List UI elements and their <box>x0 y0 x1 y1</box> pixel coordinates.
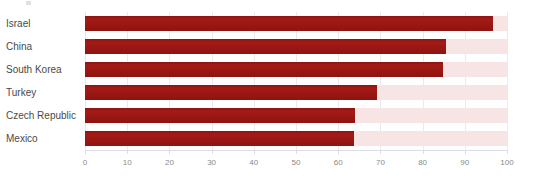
bar-row <box>85 58 507 81</box>
x-tick-label: 10 <box>123 158 132 167</box>
category-axis-labels: IsraelChinaSouth KoreaTurkeyCzech Republ… <box>0 12 74 150</box>
bar-row <box>85 81 507 104</box>
x-tick-label: 100 <box>500 158 513 167</box>
category-label-south-korea: South Korea <box>6 58 74 81</box>
bar-mexico[interactable] <box>85 131 354 146</box>
x-tick-label: 30 <box>207 158 216 167</box>
x-tick-mark <box>212 150 213 154</box>
x-tick-label: 20 <box>165 158 174 167</box>
bar-row <box>85 12 507 35</box>
bar-chart: IsraelChinaSouth KoreaTurkeyCzech Republ… <box>0 0 536 185</box>
bar-row <box>85 127 507 150</box>
crop-artifact-mark <box>26 1 31 5</box>
x-tick-mark <box>85 150 86 154</box>
x-tick-label: 0 <box>83 158 87 167</box>
x-tick-mark <box>254 150 255 154</box>
gridline <box>507 12 508 150</box>
x-tick-mark <box>423 150 424 154</box>
category-label-czech-republic: Czech Republic <box>6 104 74 127</box>
bar-turkey[interactable] <box>85 85 377 100</box>
bar-south-korea[interactable] <box>85 62 443 77</box>
x-tick-label: 60 <box>334 158 343 167</box>
bar-china[interactable] <box>85 39 446 54</box>
bar-israel[interactable] <box>85 16 493 31</box>
plot-area <box>85 12 507 150</box>
x-tick-label: 80 <box>418 158 427 167</box>
bar-czech-republic[interactable] <box>85 108 355 123</box>
x-tick-mark <box>169 150 170 154</box>
x-tick-mark <box>380 150 381 154</box>
x-tick-label: 40 <box>249 158 258 167</box>
x-tick-label: 70 <box>376 158 385 167</box>
category-label-mexico: Mexico <box>6 127 74 150</box>
bar-rows <box>85 12 507 150</box>
category-label-china: China <box>6 35 74 58</box>
bar-row <box>85 35 507 58</box>
x-tick-label: 50 <box>292 158 301 167</box>
x-tick-mark <box>296 150 297 154</box>
x-tick-label: 90 <box>460 158 469 167</box>
category-label-turkey: Turkey <box>6 81 74 104</box>
x-tick-mark <box>338 150 339 154</box>
bar-row <box>85 104 507 127</box>
x-tick-mark <box>507 150 508 154</box>
category-label-israel: Israel <box>6 12 74 35</box>
x-tick-mark <box>465 150 466 154</box>
x-tick-mark <box>127 150 128 154</box>
